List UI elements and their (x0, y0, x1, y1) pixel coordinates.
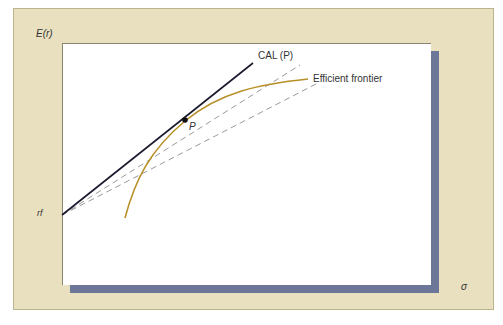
point-p-marker (182, 117, 188, 123)
chart-svg (0, 0, 503, 325)
efficient-frontier-curve (125, 79, 308, 218)
cal-line (62, 63, 253, 215)
rf-label: rf (37, 208, 43, 218)
y-axis-label: E(r) (36, 28, 53, 39)
x-axis-label: σ (461, 281, 467, 292)
cal-label: CAL (P) (258, 50, 293, 61)
frontier-label: Efficient frontier (313, 73, 382, 84)
point-p-label: P (189, 121, 196, 132)
dashed-cal-2 (62, 83, 318, 215)
dashed-cal-1 (62, 65, 300, 215)
